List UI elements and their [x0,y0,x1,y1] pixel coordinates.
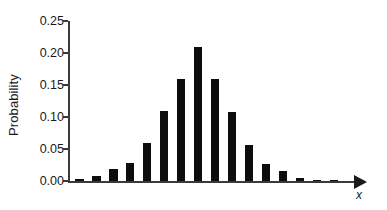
y-tick-label: 0.25 [26,15,64,28]
plot-area [70,21,356,181]
y-tick-label: 0.15 [26,79,64,92]
x-axis-label: x [356,188,362,202]
y-tick-mark [63,84,68,86]
bar [211,79,219,181]
bar [177,79,185,181]
y-tick-label: 0.05 [26,143,64,156]
bar [160,111,168,181]
bar [92,176,100,181]
bar [75,179,83,181]
bar [296,178,304,181]
y-tick-label: 0.00 [26,175,64,188]
bar [279,171,287,181]
y-tick-mark [63,180,68,182]
bar [313,180,321,181]
bar [109,169,117,181]
y-tick-mark [63,20,68,22]
y-tick-label: 0.20 [26,47,64,60]
y-axis-tick-labels: 0.000.050.100.150.200.25 [26,0,64,210]
bar [228,112,236,181]
probability-distribution-chart: Probability 0.000.050.100.150.200.25 x [0,0,387,210]
y-tick-label: 0.10 [26,111,64,124]
x-axis-line [68,181,356,183]
bar [194,47,202,181]
bar [143,143,151,181]
bar [330,180,338,181]
y-tick-mark [63,148,68,150]
bar [262,164,270,181]
bar [126,163,134,181]
y-tick-mark [63,116,68,118]
y-tick-mark [63,52,68,54]
bar [245,145,253,181]
y-axis-label: Probability [0,0,26,210]
